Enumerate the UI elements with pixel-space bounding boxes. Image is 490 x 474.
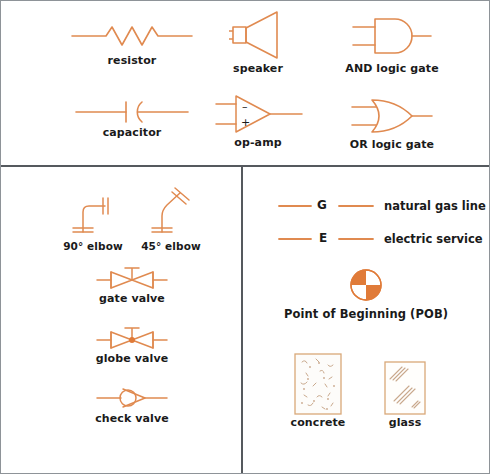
symbol-label: AND logic gate (317, 62, 467, 75)
gate-valve-symbol (85, 263, 179, 291)
symbol-label: glass (363, 416, 447, 429)
and-gate-symbol (317, 11, 467, 61)
symbol-label: resistor (63, 54, 201, 67)
symbol-cell-check-valve: check valve (85, 383, 179, 425)
globe-valve-symbol (85, 323, 179, 351)
symbol-cell-point-of-beginning: Point of Beginning (POB) (251, 267, 481, 321)
symbol-label: OR logic gate (317, 138, 467, 151)
elbow-45-symbol (129, 185, 213, 239)
resistor-symbol (63, 19, 201, 53)
symbol-label: concrete (276, 416, 360, 429)
utility-line-letter: E (315, 232, 331, 244)
symbol-label: check valve (85, 412, 179, 425)
symbol-cell-elbow-45: 45° elbow (129, 185, 213, 252)
symbol-cell-glass: glass (363, 361, 447, 429)
speaker-symbol (204, 9, 312, 61)
symbol-cell-globe-valve: globe valve (85, 323, 179, 365)
symbol-cell-or-gate: OR logic gate (317, 95, 467, 151)
glass-hatch-symbol (363, 361, 447, 415)
or-gate-symbol (317, 95, 467, 137)
symbol-label: 90° elbow (51, 240, 135, 252)
symbol-cell-and-gate: AND logic gate (317, 11, 467, 75)
symbol-label: capacitor (63, 126, 201, 139)
utility-line-electric: E electric service (277, 232, 483, 246)
symbol-cell-concrete: concrete (276, 353, 360, 429)
svg-text:–: – (242, 100, 248, 113)
symbol-label: globe valve (85, 352, 179, 365)
capacitor-symbol (63, 99, 201, 125)
vertical-divider (241, 165, 243, 473)
symbol-label: gate valve (85, 292, 179, 305)
symbol-cell-resistor: resistor (63, 19, 201, 67)
elbow-90-symbol (51, 191, 135, 239)
utility-line-label: electric service (384, 232, 483, 246)
utility-line-gas: G natural gas line (277, 199, 486, 213)
utility-line-letter: G (313, 199, 331, 211)
check-valve-symbol (85, 383, 179, 411)
concrete-hatch-symbol (276, 353, 360, 415)
symbol-cell-capacitor: capacitor (63, 99, 201, 139)
symbol-label: op-amp (204, 136, 312, 149)
svg-text:+: + (241, 116, 250, 129)
symbol-label: speaker (204, 62, 312, 75)
point-of-beginning-symbol (251, 267, 481, 303)
utility-line-label: natural gas line (384, 199, 486, 213)
symbol-cell-speaker: speaker (204, 9, 312, 75)
symbol-label: Point of Beginning (POB) (251, 307, 481, 321)
symbol-cell-gate-valve: gate valve (85, 263, 179, 305)
symbol-reference-sheet: resistor speaker AND logic gate (0, 0, 490, 474)
op-amp-symbol: – + (204, 93, 312, 135)
symbol-label: 45° elbow (129, 240, 213, 252)
symbol-cell-elbow-90: 90° elbow (51, 191, 135, 252)
horizontal-divider (1, 165, 489, 167)
symbol-cell-op-amp: – + op-amp (204, 93, 312, 149)
